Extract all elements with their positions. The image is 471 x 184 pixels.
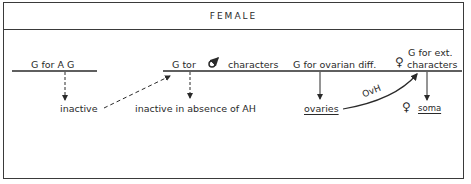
result-inactive-absence-ah: inactive in absence of AH [135,103,256,114]
female-symbol-icon: ♀ [395,57,404,68]
gene-label-ext-line1: G for ext. [408,47,453,58]
gene-label-male-suffix: characters [228,59,278,70]
male-symbol-icon [209,58,218,67]
gene-label-ag: G for A G [31,59,74,70]
gene-label-ovarian: G for ovarian diff. [293,59,376,70]
diagram-lines [0,0,471,184]
result-ovaries: ovaries [304,103,339,114]
result-soma: soma [418,103,441,114]
gene-label-male-prefix: G tor [172,59,196,70]
female-soma-symbol-icon: ♀ [402,102,411,113]
gene-label-ext-line2: characters [407,59,457,70]
result-inactive: inactive [60,103,98,114]
